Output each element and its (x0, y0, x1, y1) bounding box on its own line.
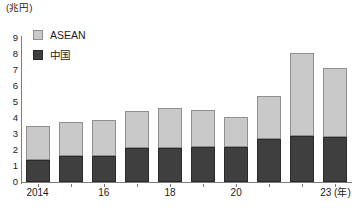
bar-segment-china (92, 156, 116, 182)
x-tick-label: 23 (年) (295, 187, 357, 199)
bar-segment-asean (224, 117, 248, 147)
bar-segment-china (26, 160, 50, 182)
bar-segment-asean (26, 126, 50, 160)
x-axis-line (21, 182, 352, 183)
bar-segment-asean (191, 110, 215, 147)
bar-segment-asean (257, 96, 281, 139)
bar-segment-asean (158, 108, 182, 147)
y-tick-label: 3 (2, 129, 18, 139)
bar-segment-china (125, 148, 149, 182)
bar-segment-china (323, 137, 347, 182)
bar-segment-asean (92, 120, 116, 155)
bar-2017 (125, 111, 149, 182)
bar-segment-china (191, 147, 215, 182)
bar-segment-asean (125, 111, 149, 149)
bar-2014 (26, 126, 50, 182)
bar-2019 (191, 110, 215, 182)
bar-segment-china (158, 148, 182, 182)
bar-2020 (224, 117, 248, 182)
bar-segment-china (59, 156, 83, 182)
y-tick-label: 2 (2, 145, 18, 155)
stacked-bar-chart: (兆円) 0123456789 ASEAN 中国 201416182023 (年… (0, 0, 357, 213)
bar-segment-china (290, 136, 314, 182)
y-tick-label: 8 (2, 49, 18, 59)
y-tick-label: 5 (2, 97, 18, 107)
y-tick-label: 9 (2, 33, 18, 43)
y-tick-label: 6 (2, 81, 18, 91)
bar-2015 (59, 122, 83, 182)
bar-2018 (158, 108, 182, 182)
bar-2016 (92, 120, 116, 182)
bar-segment-china (257, 139, 281, 182)
x-axis-labels: 201416182023 (年) (21, 184, 352, 210)
y-tick-label: 1 (2, 161, 18, 171)
chart-bars (21, 38, 352, 182)
bar-2021 (257, 96, 281, 182)
bar-2022 (290, 53, 314, 182)
bar-2023 (323, 68, 347, 182)
bar-segment-asean (290, 53, 314, 136)
bar-segment-asean (59, 122, 83, 156)
y-tick-label: 7 (2, 65, 18, 75)
bar-segment-asean (323, 68, 347, 138)
y-tick-label: 0 (2, 177, 18, 187)
x-tick-mark (269, 184, 270, 187)
y-axis-unit-caption: (兆円) (6, 2, 32, 14)
x-tick-label: 20 (196, 187, 276, 199)
y-tick-label: 4 (2, 113, 18, 123)
bar-segment-china (224, 147, 248, 182)
